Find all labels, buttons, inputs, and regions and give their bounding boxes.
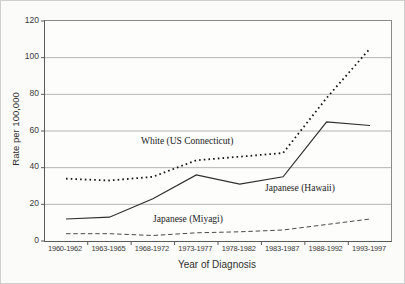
x-tick-label: 1978-1982 (217, 244, 261, 253)
series-line-dotted (66, 49, 370, 181)
y-tick-label: 60 (1, 125, 39, 136)
y-tick-label: 40 (1, 161, 39, 172)
y-tick-label: 100 (1, 51, 39, 62)
chart: Rate per 100,000 020406080100120 White (… (0, 0, 405, 284)
x-tick-label: 1988-1992 (304, 244, 348, 253)
x-tick-label: 1983-1987 (260, 244, 304, 253)
x-tick-label: 1963-1965 (86, 244, 130, 253)
series-label-japanese-miyagi: Japanese (Miyagi) (153, 214, 223, 224)
x-tick-label: 1973-1977 (173, 244, 217, 253)
plot-svg (45, 21, 391, 241)
y-tick-label: 20 (1, 198, 39, 209)
y-tick-label: 0 (1, 235, 39, 246)
x-tick-label: 1968-1972 (130, 244, 174, 253)
series-label-white-us-connecticut: White (US Connecticut) (141, 136, 233, 146)
x-axis-title: Year of Diagnosis (44, 259, 390, 270)
plot-area (44, 20, 392, 242)
x-tick-label: 1960-1962 (43, 244, 87, 253)
y-tick-label: 80 (1, 88, 39, 99)
x-tick-label: 1993-1997 (347, 244, 391, 253)
y-tick-label: 120 (1, 15, 39, 26)
series-label-japanese-hawaii: Japanese (Hawaii) (265, 183, 335, 193)
